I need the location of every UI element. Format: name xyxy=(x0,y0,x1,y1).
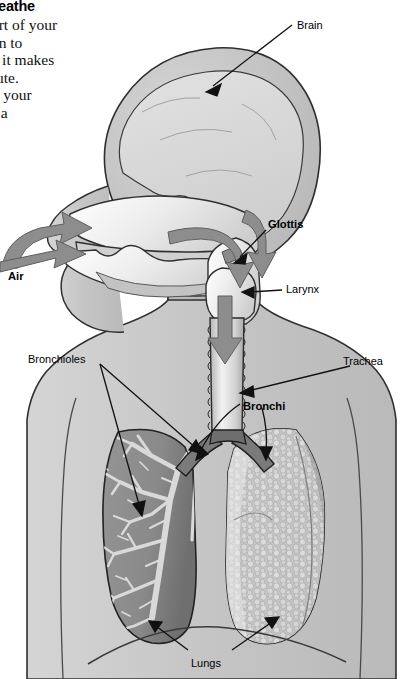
label-trachea: Trachea xyxy=(343,355,383,367)
article-line: part of your xyxy=(0,16,134,34)
label-larynx: Larynx xyxy=(286,283,319,295)
article-line: inute. xyxy=(0,69,134,87)
label-brain: Brain xyxy=(297,19,323,31)
article-heading: breathe xyxy=(0,0,134,14)
article-line: hen to xyxy=(0,34,134,52)
label-glottis: Glottis xyxy=(268,218,303,230)
illustration-stage: breathe part of your hen to st, it makes… xyxy=(0,0,414,679)
label-bronchioles: Bronchioles xyxy=(28,353,85,365)
label-air: Air xyxy=(8,270,24,282)
label-bronchi: Bronchi xyxy=(243,400,285,412)
article-line: es a xyxy=(0,104,134,122)
article-text-column: breathe part of your hen to st, it makes… xyxy=(0,0,134,122)
label-lungs: Lungs xyxy=(191,657,221,669)
article-line: st, it makes xyxy=(0,51,134,69)
article-line: ell your xyxy=(0,86,134,104)
